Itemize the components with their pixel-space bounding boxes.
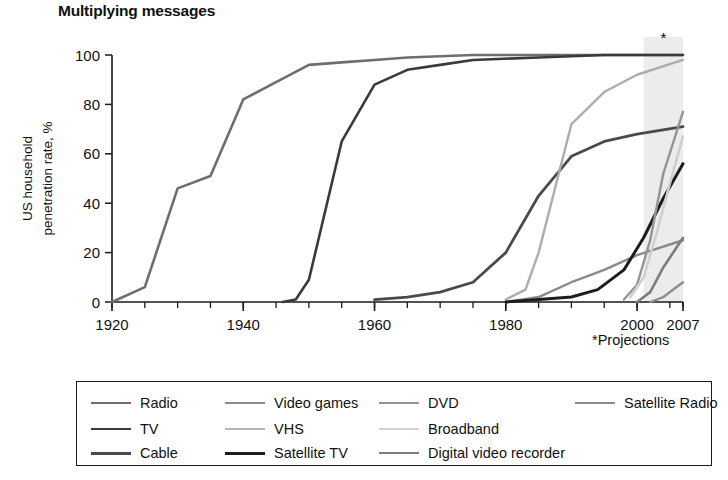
legend-label: Radio <box>140 396 178 411</box>
y-axis-title-line1: US household <box>20 136 35 221</box>
x-tick-label: 2007 <box>666 316 699 333</box>
legend-label: Digital video recorder <box>428 446 565 461</box>
legend-label: Satellite TV <box>274 446 348 461</box>
series-line-tv <box>283 55 683 302</box>
legend-label: DVD <box>428 396 459 411</box>
legend-swatch-line <box>379 428 419 430</box>
x-tick-label: 1940 <box>227 316 260 333</box>
legend-item[interactable]: Cable <box>91 444 178 462</box>
y-tick-label: 0 <box>92 294 100 311</box>
legend-item[interactable]: DVD <box>379 394 459 412</box>
legend-grid: RadioTVCableVideo gamesVHSSatellite TVDV… <box>77 382 711 465</box>
legend-swatch-line <box>225 452 265 455</box>
page-title: Multiplying messages <box>58 2 215 20</box>
y-tick-label: 100 <box>75 47 100 64</box>
legend-swatch-line <box>575 402 615 404</box>
legend-item[interactable]: VHS <box>225 420 304 438</box>
x-tick-label: 2000 <box>620 316 653 333</box>
projection-asterisk: * <box>660 29 666 46</box>
y-tick-label: 80 <box>83 96 100 113</box>
legend-item[interactable]: TV <box>91 420 159 438</box>
chart-page: Multiplying messages 0204060801001920194… <box>0 0 728 480</box>
projection-band <box>644 37 683 302</box>
legend-label: VHS <box>274 422 304 437</box>
x-tick-label: 1920 <box>95 316 128 333</box>
chart-plot-area: 020406080100192019401960198020002007US h… <box>0 20 728 360</box>
legend-label: Broadband <box>428 422 499 437</box>
x-tick-label: 1980 <box>489 316 522 333</box>
y-axis-title-line2: penetration rate, % <box>40 121 55 235</box>
legend-item[interactable]: Digital video recorder <box>379 444 565 462</box>
line-chart-svg: 020406080100192019401960198020002007US h… <box>0 20 728 360</box>
legend-label: TV <box>140 422 159 437</box>
legend-swatch-line <box>91 402 131 404</box>
y-tick-label: 20 <box>83 244 100 261</box>
legend-label: Video games <box>274 396 358 411</box>
legend-item[interactable]: Satellite TV <box>225 444 348 462</box>
legend-swatch-line <box>379 452 419 454</box>
legend-item[interactable]: Broadband <box>379 420 499 438</box>
legend-swatch-line <box>379 402 419 404</box>
y-tick-label: 40 <box>83 195 100 212</box>
projections-note: *Projections <box>592 332 669 348</box>
legend-swatch-line <box>225 402 265 404</box>
series-line-cable <box>375 127 683 300</box>
legend-item[interactable]: Video games <box>225 394 358 412</box>
legend-label: Satellite Radio <box>624 396 718 411</box>
legend-swatch-line <box>91 452 131 455</box>
legend-label: Cable <box>140 446 178 461</box>
legend-item[interactable]: Radio <box>91 394 178 412</box>
series-line-radio <box>112 55 683 302</box>
x-tick-label: 1960 <box>358 316 391 333</box>
y-tick-label: 60 <box>83 145 100 162</box>
chart-legend: RadioTVCableVideo gamesVHSSatellite TVDV… <box>76 381 712 466</box>
legend-swatch-line <box>91 428 131 430</box>
legend-item[interactable]: Satellite Radio <box>575 394 718 412</box>
legend-swatch-line <box>225 428 265 430</box>
